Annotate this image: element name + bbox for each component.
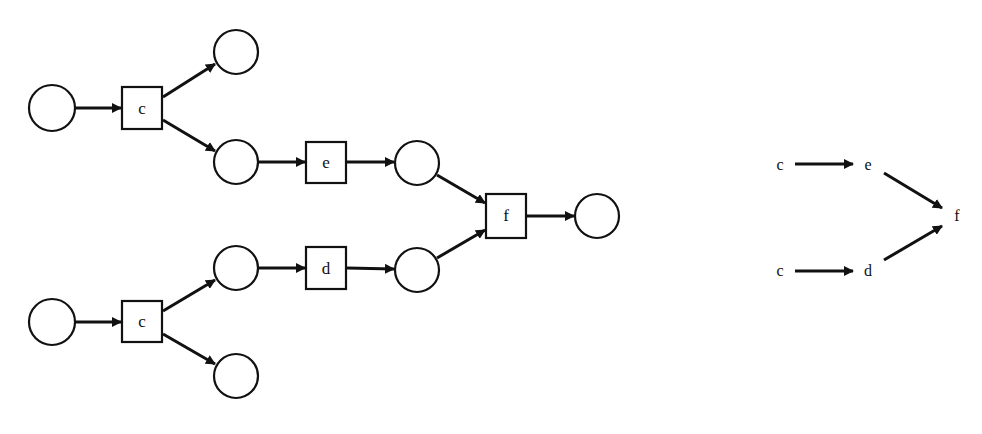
- transition-label: c: [138, 312, 146, 331]
- transition-label: f: [503, 206, 509, 225]
- place-p3: [214, 140, 258, 184]
- arc-d-p7: [347, 268, 394, 269]
- transition-label: c: [138, 99, 146, 118]
- place-p1: [29, 85, 75, 131]
- place-p5: [575, 194, 619, 238]
- transition-label: d: [322, 259, 331, 278]
- transition-f: f: [486, 194, 526, 238]
- node-d: d: [864, 262, 872, 279]
- arc-c2-p6: [163, 280, 215, 311]
- place-p2: [214, 30, 258, 74]
- edge-d-f: [884, 226, 942, 260]
- place-p8: [29, 299, 75, 345]
- node-c-top: c: [776, 156, 783, 173]
- node-c-bottom: c: [776, 262, 783, 279]
- arc-c1-p3: [163, 120, 215, 151]
- place-p9: [214, 354, 258, 398]
- dependency-graph: c e f c d: [776, 156, 960, 279]
- place-p4: [395, 141, 439, 185]
- petri-net: c e f d c: [29, 30, 619, 398]
- edge-e-f: [884, 173, 942, 208]
- transition-label: e: [322, 153, 330, 172]
- place-p6: [214, 246, 258, 290]
- transition-c-top: c: [122, 87, 162, 129]
- diagram-canvas: c e f d c c e f c d: [0, 0, 982, 434]
- arc-c1-p2: [163, 64, 215, 97]
- arc-p4-f: [437, 175, 485, 203]
- node-f: f: [954, 207, 960, 224]
- transition-e: e: [306, 142, 346, 183]
- transition-c-bottom: c: [122, 301, 162, 342]
- place-p7: [395, 248, 439, 292]
- node-e: e: [864, 156, 871, 173]
- transition-d: d: [306, 247, 346, 289]
- arc-c2-p9: [163, 334, 215, 364]
- arc-p7-f: [437, 230, 485, 258]
